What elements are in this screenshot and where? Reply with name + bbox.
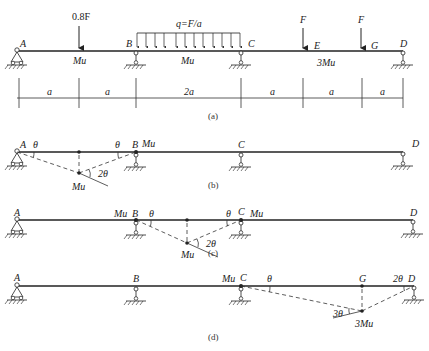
point-label-B: B <box>126 38 132 49</box>
point-label-B: B <box>132 208 138 219</box>
point-label-D: D <box>411 138 420 149</box>
angle-label-mid: 2θ <box>98 168 108 179</box>
hinge-moment-mid: Mu <box>71 181 85 192</box>
point-label-A: A <box>19 139 27 150</box>
dimension-label-3: 2a <box>184 86 194 97</box>
angle-label-C: θ <box>267 273 272 284</box>
angle-label-mid: 3θ <box>332 308 343 319</box>
angle-arc-B <box>118 152 119 158</box>
point-label-A: A <box>19 38 27 49</box>
load-label-G: F <box>357 14 365 25</box>
angle-label-B: θ <box>149 208 154 219</box>
moment-capacity-AB: Mu <box>72 55 86 66</box>
roller-support-C <box>229 287 251 305</box>
dimension-label-4: a <box>270 86 275 97</box>
roller-support-D <box>391 51 413 69</box>
angle-arc-C <box>227 220 228 226</box>
distributed-load-label: q=F/a <box>176 18 202 29</box>
roller-support-D <box>391 152 413 170</box>
point-label-D: D <box>409 207 418 218</box>
point-label-A: A <box>13 272 21 283</box>
angle-arc-mid <box>197 239 198 247</box>
angle-label-B: θ <box>115 139 120 150</box>
moment-capacity-CD: 3Mu <box>316 57 335 68</box>
caption-b: (b) <box>208 180 219 190</box>
angle-arc-B <box>151 220 152 226</box>
hinge-moment-C: Mu <box>221 273 235 284</box>
plastic-hinge-B <box>134 150 138 154</box>
collapse-line-1 <box>136 220 187 243</box>
point-label-C: C <box>238 206 245 217</box>
point-label-E: E <box>313 40 320 51</box>
roller-support-B <box>124 287 146 305</box>
load-label-E: F <box>299 14 307 25</box>
point-label-B: B <box>132 139 138 150</box>
roller-support-B <box>124 51 146 69</box>
roller-support-C <box>229 51 251 69</box>
dimension-label-1: a <box>47 86 52 97</box>
roller-support-B <box>124 221 146 239</box>
angle-label-A: θ <box>33 139 38 150</box>
angle-label-D: 2θ <box>393 273 403 284</box>
dimension-lines <box>17 78 403 108</box>
dimension-label-5: a <box>329 86 334 97</box>
hinge-point <box>77 150 81 154</box>
caption-a: (a) <box>208 111 218 121</box>
point-label-C: C <box>248 38 255 49</box>
angle-arc-C <box>270 286 271 292</box>
figure-c: A Mu B θ θ C Mu 2θ Mu D (c) <box>5 206 423 260</box>
hinge-moment-C: Mu <box>249 208 263 219</box>
caption-d: (d) <box>208 332 219 342</box>
point-label-D: D <box>399 38 408 49</box>
plastic-hinge-mid <box>77 171 81 175</box>
hinge-moment-mid: Mu <box>180 249 194 260</box>
roller-support-C <box>229 153 251 171</box>
roller-support-D <box>402 286 424 304</box>
plastic-hinge-mid <box>185 241 189 245</box>
collapse-line-1 <box>241 286 362 311</box>
dimension-label-6: a <box>380 86 385 97</box>
angle-arc-mid <box>349 308 350 314</box>
caption-c: (c) <box>208 248 218 258</box>
collapse-line-2 <box>362 286 414 311</box>
hinge-point-G <box>360 284 364 288</box>
figure-d: A B Mu C θ G 2θ D 3θ 3Mu (d) <box>5 272 424 342</box>
plastic-hinge-G <box>360 309 364 313</box>
figure-a: 0.8F q=F/a F F A B C E G D <box>5 11 413 121</box>
angle-arc-mid <box>89 170 90 178</box>
point-label-G: G <box>371 40 378 51</box>
load-label-0.8F: 0.8F <box>72 11 91 22</box>
hinge-point <box>185 218 189 222</box>
hinge-moment-G: 3Mu <box>354 318 373 329</box>
point-label-C: C <box>240 272 247 283</box>
hinge-moment-B: Mu <box>113 208 127 219</box>
figure-b: A θ θ B Mu 2θ Mu C D (b) <box>5 138 420 192</box>
roller-support-D <box>401 220 423 238</box>
hinge-moment-B: Mu <box>141 138 155 149</box>
dimension-label-2: a <box>105 86 110 97</box>
point-label-G: G <box>359 273 366 284</box>
angle-label-C: θ <box>226 208 231 219</box>
point-label-A: A <box>13 207 21 218</box>
roller-support-B <box>124 153 146 171</box>
distributed-load-arrows <box>137 33 240 47</box>
point-label-D: D <box>407 273 416 284</box>
collapse-line-1 <box>17 152 79 173</box>
point-label-C: C <box>238 139 245 150</box>
moment-capacity-BC: Mu <box>180 55 194 66</box>
point-label-B: B <box>133 273 139 284</box>
